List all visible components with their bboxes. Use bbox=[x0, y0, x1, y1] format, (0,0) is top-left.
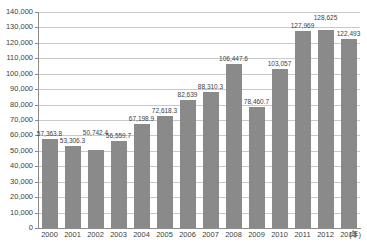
x-axis-tick-label: 2010 bbox=[268, 230, 291, 240]
bar-value-label: 106,447.6 bbox=[219, 55, 248, 62]
bar-value-label: 53,306.3 bbox=[60, 137, 85, 144]
y-axis-tick-label: 130,000 bbox=[0, 23, 33, 31]
x-axis-tick-label: 2005 bbox=[153, 230, 176, 240]
bar bbox=[272, 69, 288, 228]
bar bbox=[134, 124, 150, 228]
y-gridline bbox=[38, 43, 360, 44]
bar bbox=[65, 146, 81, 228]
y-axis-tick-label: 100,000 bbox=[0, 70, 33, 78]
bar bbox=[88, 150, 104, 228]
x-axis-tick-label: 2008 bbox=[222, 230, 245, 240]
x-axis-tick-label: 2012 bbox=[314, 230, 337, 240]
x-axis-line bbox=[38, 228, 361, 229]
bar-value-label: 103,057 bbox=[268, 60, 292, 67]
bar bbox=[203, 92, 219, 228]
x-axis-tick-label: 2011 bbox=[291, 230, 314, 240]
bar bbox=[318, 30, 334, 228]
y-axis-tick-label: 30,000 bbox=[0, 178, 33, 186]
bar bbox=[226, 64, 242, 228]
y-gridline bbox=[38, 120, 360, 121]
y-axis-tick-label: 20,000 bbox=[0, 193, 33, 201]
bar-value-label: 56,559.7 bbox=[106, 132, 131, 139]
x-axis-tick-label: 2013 bbox=[337, 230, 360, 240]
bar-value-label: 128,625 bbox=[314, 14, 338, 21]
x-axis-tick-label: 2001 bbox=[61, 230, 84, 240]
bar bbox=[180, 100, 196, 228]
bar-value-label: 88,310.3 bbox=[198, 83, 223, 90]
y-axis-tick-label: 70,000 bbox=[0, 116, 33, 124]
y-gridline bbox=[38, 213, 360, 214]
y-axis-tick-label: 120,000 bbox=[0, 39, 33, 47]
y-axis-tick-label: 40,000 bbox=[0, 162, 33, 170]
y-gridline bbox=[38, 74, 360, 75]
bar-chart: (年) 010,00020,00030,00040,00050,00060,00… bbox=[0, 0, 367, 246]
y-axis-tick-label: 0 bbox=[0, 224, 33, 232]
y-axis-tick-label: 110,000 bbox=[0, 54, 33, 62]
y-axis-tick-label: 80,000 bbox=[0, 101, 33, 109]
bar bbox=[111, 141, 127, 228]
x-axis-tick-label: 2004 bbox=[130, 230, 153, 240]
bar bbox=[157, 116, 173, 228]
y-axis-tick-label: 50,000 bbox=[0, 147, 33, 155]
x-axis-tick-label: 2000 bbox=[38, 230, 61, 240]
x-axis-tick-label: 2007 bbox=[199, 230, 222, 240]
y-axis-tick-label: 60,000 bbox=[0, 131, 33, 139]
y-axis-tick-label: 140,000 bbox=[0, 8, 33, 16]
bar bbox=[341, 39, 357, 228]
bar bbox=[249, 107, 265, 228]
y-gridline bbox=[38, 58, 360, 59]
x-axis-tick-label: 2009 bbox=[245, 230, 268, 240]
y-gridline bbox=[38, 166, 360, 167]
bar-value-label: 127,969 bbox=[291, 22, 315, 29]
y-gridline bbox=[38, 197, 360, 198]
x-axis-tick-label: 2002 bbox=[84, 230, 107, 240]
y-gridline bbox=[38, 182, 360, 183]
y-gridline bbox=[38, 151, 360, 152]
y-axis-tick-label: 90,000 bbox=[0, 85, 33, 93]
y-gridline bbox=[38, 12, 360, 13]
bar-value-label: 67,198.9 bbox=[129, 115, 154, 122]
bar bbox=[42, 139, 58, 228]
x-axis-tick-label: 2006 bbox=[176, 230, 199, 240]
y-axis-tick-label: 10,000 bbox=[0, 209, 33, 217]
y-axis-line bbox=[38, 12, 39, 228]
y-gridline bbox=[38, 105, 360, 106]
bar-value-label: 122,493 bbox=[337, 30, 361, 37]
bar-value-label: 50,742.4 bbox=[83, 129, 108, 136]
bar-value-label: 78,460.7 bbox=[244, 98, 269, 105]
bar-value-label: 72,618.3 bbox=[152, 107, 177, 114]
bar-value-label: 57,363.8 bbox=[37, 130, 62, 137]
bar-value-label: 82,639 bbox=[178, 91, 198, 98]
x-axis-tick-label: 2003 bbox=[107, 230, 130, 240]
bar bbox=[295, 31, 311, 228]
